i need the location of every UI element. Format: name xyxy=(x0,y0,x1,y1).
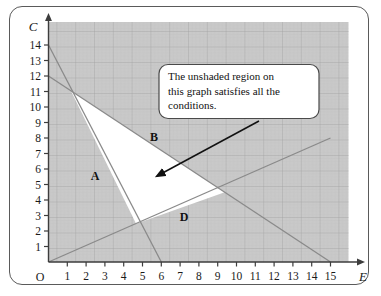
y-tick-label: 5 xyxy=(35,179,41,191)
origin-label: O xyxy=(36,270,45,284)
figure-page: 14 13 12 11 10 9 8 7 6 5 4 3 2 1 1 2 3 4… xyxy=(0,0,381,296)
y-tick-label: 11 xyxy=(30,86,41,98)
y-tick-label: 4 xyxy=(35,194,41,206)
y-tick-label: 2 xyxy=(35,225,41,237)
x-tick-label: 9 xyxy=(215,270,221,282)
x-tick-label: 12 xyxy=(268,270,280,282)
region-label-d: D xyxy=(180,210,189,224)
callout-box: The unshaded region on this graph satisf… xyxy=(159,65,319,119)
y-tick-label: 10 xyxy=(30,101,42,113)
x-tick-label: 6 xyxy=(158,270,164,282)
x-tick-label: 11 xyxy=(250,270,261,282)
y-tick-label: 7 xyxy=(35,148,41,160)
x-tick-label: 4 xyxy=(121,270,127,282)
x-tick-label: 10 xyxy=(231,270,243,282)
x-tick-label: 7 xyxy=(177,270,183,282)
y-tick-label: 1 xyxy=(35,241,41,253)
y-tick-label: 13 xyxy=(30,55,42,67)
x-tick-labels: 1 2 3 4 5 6 7 8 9 10 11 12 13 14 15 xyxy=(64,270,336,282)
x-axis-label: E xyxy=(358,269,367,284)
x-tick-label: 8 xyxy=(196,270,202,282)
callout-line-2: this graph satisfies all the xyxy=(168,85,280,97)
region-label-a: A xyxy=(91,169,100,183)
grid-overlay xyxy=(49,22,349,262)
region-label-b: B xyxy=(150,130,158,144)
x-tick-label: 3 xyxy=(102,270,108,282)
y-tick-label: 9 xyxy=(35,117,41,129)
x-tick-label: 1 xyxy=(64,270,70,282)
y-tick-label: 12 xyxy=(30,70,42,82)
x-tick-label: 14 xyxy=(306,270,318,282)
plot-area xyxy=(49,22,349,262)
y-axis-label: C xyxy=(29,19,38,34)
y-tick-labels: 14 13 12 11 10 9 8 7 6 5 4 3 2 1 xyxy=(30,39,42,253)
x-tick-label: 2 xyxy=(83,270,89,282)
x-tick-label: 5 xyxy=(140,270,146,282)
y-tick-label: 14 xyxy=(30,39,42,51)
callout-line-1: The unshaded region on xyxy=(168,70,274,82)
callout-line-3: conditions. xyxy=(168,99,217,111)
y-tick-label: 3 xyxy=(35,210,41,222)
x-tick-label: 15 xyxy=(325,270,337,282)
graph-svg: 14 13 12 11 10 9 8 7 6 5 4 3 2 1 1 2 3 4… xyxy=(0,0,381,296)
y-tick-label: 8 xyxy=(35,132,41,144)
x-tick-label: 13 xyxy=(287,270,299,282)
y-tick-label: 6 xyxy=(35,163,41,175)
